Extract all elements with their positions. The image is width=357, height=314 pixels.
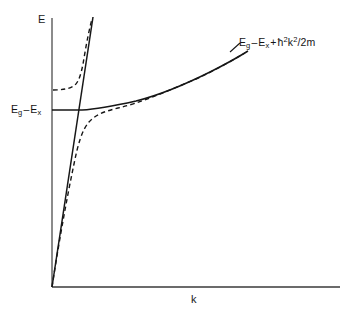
x-axis-label: k — [191, 293, 197, 305]
formula-hbar-exponent: 2 — [284, 35, 288, 44]
exciton-polariton-dispersion-figure: E k Eg–Ex Eg–Ex+ħ2k2/2m — [0, 0, 357, 314]
formula-denominator: /2m — [297, 36, 315, 48]
formula-sub-2: x — [265, 41, 269, 50]
upper-polariton-dashed-curve — [53, 19, 92, 90]
threshold-sub-2: x — [37, 108, 41, 117]
formula-k-exponent: 2 — [293, 35, 297, 44]
lower-polariton-dashed-curve — [52, 53, 245, 287]
formula-plus: + — [269, 36, 277, 48]
formula-hbar: ħ — [278, 36, 284, 48]
exciton-band-curve — [52, 51, 248, 110]
formula-sub-1: g — [246, 41, 250, 50]
threshold-energy-label: Eg–Ex — [11, 103, 41, 115]
y-axis-label: E — [38, 13, 46, 25]
threshold-sub-1: g — [18, 108, 22, 117]
band-formula-label: Eg–Ex+ħ2k2/2m — [239, 36, 315, 48]
